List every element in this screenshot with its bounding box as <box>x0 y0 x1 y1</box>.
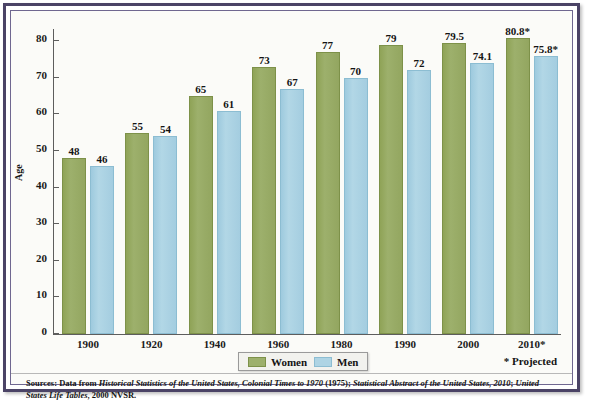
y-axis-tick-label: 30 <box>36 215 53 227</box>
bar-value-label: 73 <box>259 54 270 66</box>
legend-item-men: Men <box>314 356 358 368</box>
bar-value-label: 74.1 <box>473 50 492 62</box>
bar-women-1900[interactable]: 48 <box>62 158 86 334</box>
x-axis-tick-label: 1940 <box>187 338 243 350</box>
bar-women-2010[interactable]: 80.8* <box>506 38 530 334</box>
x-axis-tick-label: 1960 <box>250 338 306 350</box>
bar-women-2000[interactable]: 79.5 <box>442 43 466 334</box>
y-axis-tick-label: 70 <box>36 69 53 81</box>
y-axis-tick-label: 60 <box>36 105 53 117</box>
x-axis-tick-label: 2010* <box>504 338 560 350</box>
y-axis-tick-label: 0 <box>42 325 54 337</box>
bar-women-1980[interactable]: 77 <box>316 52 340 334</box>
legend-item-women: Women <box>248 356 307 368</box>
legend-swatch-women-icon <box>248 357 266 367</box>
legend-label-men: Men <box>337 356 358 368</box>
bar-women-1990[interactable]: 79 <box>379 45 403 334</box>
x-axis-tick-label: 1900 <box>60 338 116 350</box>
bar-value-label: 77 <box>322 39 333 51</box>
sources-italic-1: Historical Statistics of the United Stat… <box>99 378 323 388</box>
bar-group: 73671960 <box>250 29 313 334</box>
bar-value-label: 75.8* <box>533 43 558 55</box>
legend-label-women: Women <box>271 356 307 368</box>
y-axis-title: Age <box>13 164 24 181</box>
sources-italic-2: Statistical Abstract of the United State… <box>353 378 511 388</box>
bar-value-label: 48 <box>69 145 80 157</box>
bar-value-label: 55 <box>132 120 143 132</box>
bar-men-1900[interactable]: 46 <box>90 166 114 334</box>
figure-inner-border: Age 80706050403020100 484619005554192065… <box>10 10 573 385</box>
y-axis-tick-label: 40 <box>36 179 53 191</box>
y-axis-tick-label: 10 <box>36 288 53 300</box>
chart-legend: Women Men <box>238 352 368 371</box>
x-axis-tick-label: 1990 <box>377 338 433 350</box>
bar-men-1980[interactable]: 70 <box>344 78 368 334</box>
bar-men-1920[interactable]: 54 <box>153 136 177 334</box>
plot-area: 4846190055541920656119407367196077701980… <box>54 29 561 334</box>
bar-men-1990[interactable]: 72 <box>407 70 431 334</box>
sources-divider <box>11 373 572 374</box>
bar-men-1940[interactable]: 61 <box>217 111 241 334</box>
bar-women-1960[interactable]: 73 <box>252 67 276 334</box>
x-axis-line <box>53 334 561 335</box>
bar-group: 48461900 <box>60 29 123 334</box>
sources-suffix: , 2000 NVSR. <box>88 390 137 400</box>
bar-women-1920[interactable]: 55 <box>125 133 149 334</box>
y-axis-tick-label: 80 <box>36 32 53 44</box>
bar-value-label: 65 <box>195 83 206 95</box>
legend-swatch-men-icon <box>314 357 332 367</box>
bar-group: 80.8*75.8*2010* <box>504 29 567 334</box>
bar-group: 65611940 <box>187 29 250 334</box>
y-axis-tick-label: 20 <box>36 252 53 264</box>
x-axis-tick-label: 2000 <box>440 338 496 350</box>
bar-men-2000[interactable]: 74.1 <box>470 63 494 334</box>
bar-value-label: 80.8* <box>505 25 530 37</box>
bar-value-label: 70 <box>350 65 361 77</box>
bar-value-label: 61 <box>223 98 234 110</box>
bar-group: 79.574.12000 <box>440 29 503 334</box>
bar-value-label: 46 <box>97 153 108 165</box>
bar-value-label: 67 <box>287 76 298 88</box>
bar-value-label: 79.5 <box>445 30 464 42</box>
bar-men-2010[interactable]: 75.8* <box>534 56 558 334</box>
bar-group: 55541920 <box>123 29 186 334</box>
sources-prefix: Sources: Data from <box>26 378 99 388</box>
sources-text: Sources: Data from Historical Statistics… <box>26 377 557 402</box>
bar-men-1960[interactable]: 67 <box>280 89 304 334</box>
projected-footnote: * Projected <box>504 355 557 367</box>
sources-mid-1: (1975); <box>323 378 353 388</box>
bar-value-label: 54 <box>160 123 171 135</box>
bar-value-label: 79 <box>385 32 396 44</box>
y-axis-tick-label: 50 <box>36 142 53 154</box>
bar-value-label: 72 <box>413 57 424 69</box>
x-axis-tick-label: 1920 <box>123 338 179 350</box>
bar-chart: Age 80706050403020100 484619005554192065… <box>11 11 572 341</box>
bar-women-1940[interactable]: 65 <box>189 96 213 334</box>
bar-group: 79721990 <box>377 29 440 334</box>
figure-frame: Age 80706050403020100 484619005554192065… <box>3 3 580 392</box>
x-axis-tick-label: 1980 <box>314 338 370 350</box>
bar-group: 77701980 <box>314 29 377 334</box>
